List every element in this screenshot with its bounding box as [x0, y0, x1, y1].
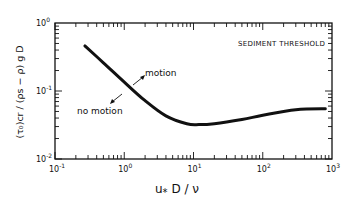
x-tick-label: 101	[188, 162, 202, 174]
no-motion-label: no motion	[77, 106, 123, 116]
x-tick-label: 102	[257, 162, 271, 174]
x-tick-label: 10-1	[49, 162, 65, 174]
y-tick-label: 10-1	[36, 84, 52, 96]
y-tick-label: 10-2	[36, 152, 52, 164]
x-tick-label: 103	[326, 162, 340, 174]
x-tick-label: 100	[118, 162, 132, 174]
x-tick-labels: 10-1100101102103	[49, 162, 340, 174]
y-axis-label: (τ₀)cr / (ρs − ρ) g D	[14, 45, 25, 138]
y-tick-label: 100	[36, 16, 50, 28]
motion-label: motion	[145, 68, 177, 78]
x-axis-label: u* D / ν	[155, 182, 199, 198]
x-axis-label-rest: D / ν	[168, 182, 200, 196]
chart-canvas: motion no motion SEDIMENT THRESHOLD 10-1…	[0, 0, 345, 203]
chart-title: SEDIMENT THRESHOLD	[238, 40, 325, 48]
x-axis-label-u: u	[155, 182, 163, 196]
y-tick-labels: 10010-110-2	[36, 16, 52, 164]
